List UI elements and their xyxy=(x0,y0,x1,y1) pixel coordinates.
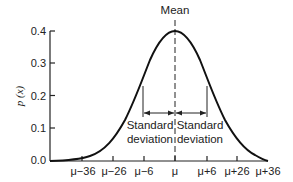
y-tick-0.4: 0.4 xyxy=(31,25,46,37)
std-left-label-line1: Standard xyxy=(127,119,174,131)
mean-label: Mean xyxy=(161,4,190,16)
y-tick-labels: 0.4 0.3 0.2 0.1 0.0 xyxy=(31,25,46,166)
x-tick-mu-plus-sigma: μ+6 xyxy=(198,165,217,177)
y-tick-0.3: 0.3 xyxy=(31,57,46,69)
y-tick-0.1: 0.1 xyxy=(31,122,46,134)
y-axis-label: p (x) xyxy=(13,85,26,107)
x-tick-mu: μ xyxy=(172,165,178,177)
y-axis xyxy=(50,31,55,161)
std-right-label-line1: Standard xyxy=(177,119,224,131)
x-tick-mu-minus-sigma: μ−6 xyxy=(135,165,154,177)
x-tick-mu-minus-3sigma: μ−36 xyxy=(71,165,96,177)
std-right-label-line2: deviation xyxy=(177,133,223,145)
x-tick-mu-plus-3sigma: μ+36 xyxy=(256,165,281,177)
x-tick-mu-minus-2sigma: μ−26 xyxy=(102,165,127,177)
y-tick-0.2: 0.2 xyxy=(31,90,46,102)
std-left-label-line2: deviation xyxy=(127,133,173,145)
x-tick-mu-plus-2sigma: μ+26 xyxy=(225,165,250,177)
x-tick-labels: μ−36 μ−26 μ−6 μ μ+6 μ+26 μ+36 xyxy=(71,165,281,177)
normal-distribution-chart: 0.4 0.3 0.2 0.1 0.0 p (x) μ−36 μ−26 μ−6 … xyxy=(0,0,293,182)
y-tick-0.0: 0.0 xyxy=(31,154,46,166)
